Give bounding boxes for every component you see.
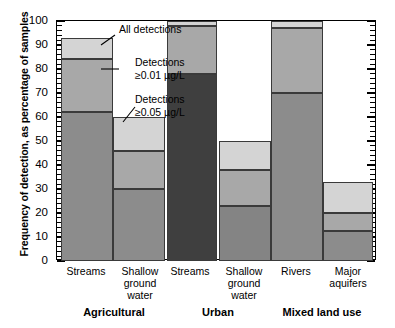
annotation-detections-005: Detections ≥0.05 µg/L (135, 93, 185, 118)
category-label-urban-shallow-ground-water: Shallow ground water (216, 265, 272, 301)
y-tick-label-60: 60 (22, 111, 48, 122)
chart-figure: Frequency of detection, as percentage of… (0, 0, 395, 328)
bar-segment-detections-001 (61, 59, 113, 112)
y-tick-label-50: 50 (22, 135, 48, 146)
category-label-agricultural-shallow-ground-water: Shallow ground water (112, 265, 168, 301)
bar-group (323, 21, 373, 261)
y-tick-label-80: 80 (22, 63, 48, 74)
bar-segment-detections-001 (323, 213, 373, 231)
bar-segment-detections-005 (271, 93, 323, 261)
group-label-urban: Urban (162, 306, 274, 318)
y-tick-label-40: 40 (22, 159, 48, 170)
category-label-mixed-major-aquifers: Major aquifers (320, 265, 376, 289)
y-tick-label-10: 10 (22, 231, 48, 242)
y-tick-label-20: 20 (22, 207, 48, 218)
bar-group (271, 21, 323, 261)
category-label-agricultural-streams: Streams (58, 265, 114, 277)
bar-segment-detections-005 (113, 189, 165, 261)
bar-group (61, 21, 113, 261)
bar-segment-all-detections (219, 141, 271, 170)
y-tick-label-70: 70 (22, 87, 48, 98)
bar-segment-detections-005 (61, 112, 113, 261)
bar-segment-detections-005 (323, 231, 373, 261)
bar-segment-all-detections (113, 117, 165, 151)
bar-segment-all-detections (323, 182, 373, 213)
bar-segment-all-detections (271, 21, 323, 28)
y-tick-label-90: 90 (22, 39, 48, 50)
y-tick-label-100: 100 (22, 15, 48, 26)
category-label-urban-streams: Streams (162, 265, 218, 277)
bar-segment-detections-001 (271, 28, 323, 93)
y-tick-label-0: 0 (22, 255, 48, 266)
bar-segment-all-detections (61, 38, 113, 60)
bar-segment-detections-005 (219, 206, 271, 261)
category-label-mixed-rivers: Rivers (268, 265, 324, 277)
annotation-all-detections: All detections (119, 23, 181, 36)
plot-area: All detections Detections ≥0.01 µg/L Det… (56, 20, 376, 260)
group-label-agricultural: Agricultural (58, 306, 170, 318)
annotation-detections-001: Detections ≥0.01 µg/L (135, 56, 185, 81)
bar-segment-detections-001 (219, 170, 271, 206)
bar-group (219, 21, 271, 261)
y-tick-label-30: 30 (22, 183, 48, 194)
group-label-mixed-land-use: Mixed land use (266, 306, 378, 318)
bar-segment-detections-001 (113, 151, 165, 189)
